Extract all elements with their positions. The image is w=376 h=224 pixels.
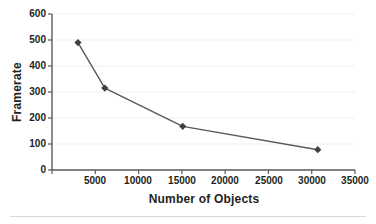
series-line-framerate: [78, 43, 318, 150]
series-markers-framerate: [74, 39, 321, 153]
bottom-divider: [10, 216, 366, 217]
axis-ticks: [48, 14, 355, 174]
x-axis-title: Number of Objects: [52, 192, 356, 206]
data-point-marker: [314, 146, 321, 153]
data-point-marker: [101, 85, 108, 92]
gridlines: [52, 14, 355, 144]
data-point-marker: [179, 123, 186, 130]
plot-area: [0, 0, 376, 224]
chart-figure: Framerate 600 500 400 300 200 100 0 5000…: [0, 0, 376, 224]
